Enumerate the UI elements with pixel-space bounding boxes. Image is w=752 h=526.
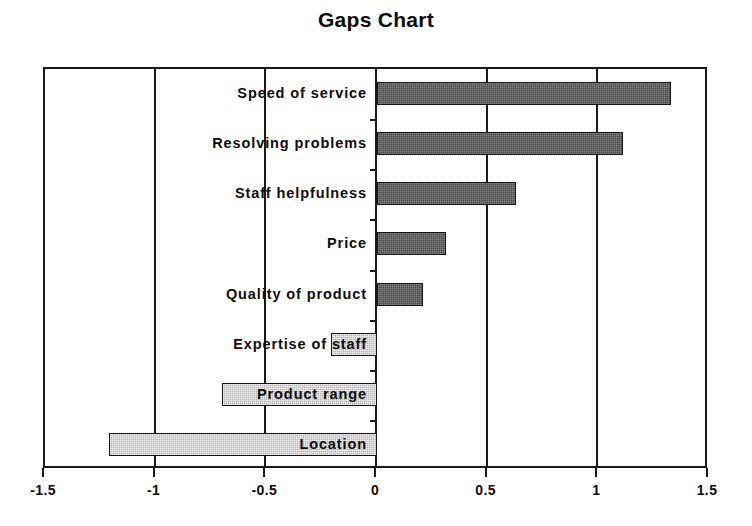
category-label: Speed of service [237, 82, 373, 105]
bar-row: Location [45, 420, 705, 469]
bar-row: Price [45, 219, 705, 268]
category-label: Quality of product [226, 283, 373, 306]
bar [377, 132, 623, 155]
x-axis-tick-label: -0.5 [251, 482, 277, 498]
category-label: Price [327, 232, 373, 255]
bar-row: Resolving problems [45, 119, 705, 168]
category-label: Resolving problems [212, 132, 373, 155]
x-axis-tick [485, 468, 487, 477]
x-axis-tick-label: -1 [147, 482, 160, 498]
x-axis-tick-label: 0.5 [475, 482, 496, 498]
bar-row: Speed of service [45, 69, 705, 118]
category-label: Expertise of staff [233, 333, 373, 356]
x-axis-tick [263, 468, 265, 477]
x-axis-tick-label: 0 [371, 482, 379, 498]
x-axis-tick [706, 468, 708, 477]
axis-inner-tick [370, 420, 377, 422]
x-axis-tick-label: -1.5 [30, 482, 56, 498]
x-axis-tick [42, 468, 44, 477]
page-title: Gaps Chart [0, 8, 752, 32]
bar-row: Quality of product [45, 270, 705, 319]
category-label: Staff helpfulness [235, 182, 373, 205]
plot-area: Speed of serviceResolving problemsStaff … [43, 67, 707, 468]
bar [377, 82, 671, 105]
axis-inner-tick [370, 270, 377, 272]
x-axis-tick [374, 468, 376, 477]
x-axis-tick-label: 1.5 [697, 482, 718, 498]
category-label: Location [299, 433, 373, 456]
bar [377, 283, 423, 306]
x-axis-tick [153, 468, 155, 477]
category-label: Product range [257, 383, 373, 406]
bar [377, 232, 446, 255]
axis-inner-tick [370, 370, 377, 372]
axis-inner-tick [370, 320, 377, 322]
axis-inner-tick [370, 219, 377, 221]
axis-inner-tick [370, 119, 377, 121]
bar-row: Expertise of staff [45, 320, 705, 369]
x-axis-tick [595, 468, 597, 477]
bar-row: Staff helpfulness [45, 169, 705, 218]
axis-inner-tick [370, 169, 377, 171]
x-axis-tick-label: 1 [592, 482, 600, 498]
bar-row: Product range [45, 370, 705, 419]
bar [377, 182, 516, 205]
